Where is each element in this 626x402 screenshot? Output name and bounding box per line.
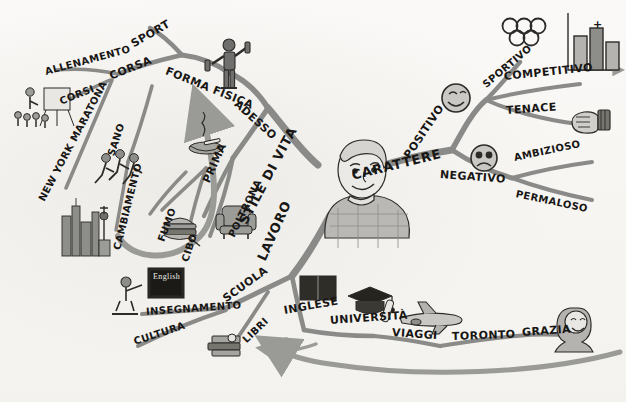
smiley-happy-icon [442, 84, 470, 112]
books-icon [208, 334, 240, 356]
smiley-sad-icon [471, 145, 497, 171]
nyc-skyline-icon [62, 198, 110, 256]
fist-icon [572, 110, 610, 133]
bar-chart-plus-label: + [593, 18, 603, 31]
mindmap-canvas: STILE DI VITA SPORT CORSA ALLENAMENTO CO… [0, 0, 626, 402]
weightlifter-icon [205, 39, 250, 88]
node-label-toronto[interactable]: TORONTO [452, 328, 516, 343]
blackboard-text: English [153, 272, 180, 281]
olympic-rings-icon [503, 19, 546, 46]
